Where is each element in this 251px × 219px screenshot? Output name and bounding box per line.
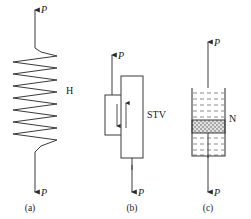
dashpot-top-force-label: P xyxy=(213,37,220,48)
dashpot-element-label: N xyxy=(229,113,236,124)
dashpot-bottom-force-label: P xyxy=(213,187,220,198)
slider-top-force-label: P xyxy=(117,50,124,61)
spring-top-connector xyxy=(35,48,41,52)
rheological-models-figure: P P H (a) P xyxy=(0,0,251,219)
spring-bottom-connector xyxy=(35,146,41,152)
slider-bottom-force-label: P xyxy=(137,187,144,198)
dashpot-piston xyxy=(192,120,225,133)
slider-block-box xyxy=(121,76,143,158)
spring-element-label: H xyxy=(66,85,73,96)
panel-caption-b: (b) xyxy=(126,203,137,214)
panel-dashpot: P P N (c) xyxy=(192,37,236,214)
spring-top-force-label: P xyxy=(40,4,47,15)
panel-caption-a: (a) xyxy=(25,203,36,214)
spring-bottom-force-label: P xyxy=(40,187,47,198)
panel-caption-c: (c) xyxy=(203,203,214,214)
slider-element-label: STV xyxy=(147,109,167,120)
spring-coil xyxy=(13,52,57,146)
panel-slider: P P STV (b) xyxy=(105,50,167,214)
panel-spring: P P H (a) xyxy=(13,4,73,214)
